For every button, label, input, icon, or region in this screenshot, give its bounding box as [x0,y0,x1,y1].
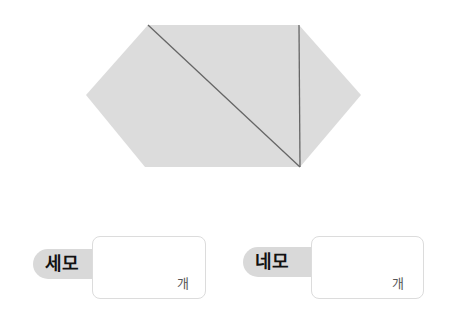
square-label-text: 네모 [255,251,289,272]
triangle-label-text: 세모 [45,253,79,274]
hexagon-figure [0,0,450,200]
triangle-count-input[interactable]: 개 [92,236,206,299]
square-count-input[interactable]: 개 [311,236,424,299]
square-label: 네모 [243,247,319,277]
square-unit: 개 [392,273,404,292]
triangle-label: 세모 [33,249,101,279]
triangle-unit: 개 [177,273,189,292]
